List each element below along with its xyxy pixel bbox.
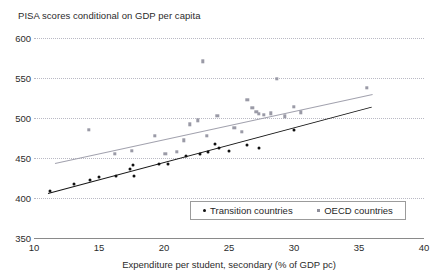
x-tick-label: 40	[419, 242, 430, 253]
data-point-transition	[217, 147, 220, 150]
y-tick-label: 450	[15, 153, 31, 164]
data-point-transition	[199, 153, 202, 156]
legend-item-transition-countries[interactable]: Transition countries	[203, 205, 293, 216]
y-axis-tick-labels: 350400450500550600	[0, 38, 31, 238]
data-point-oecd	[201, 59, 204, 62]
data-point-transition	[88, 179, 91, 182]
data-point-transition	[129, 168, 132, 171]
legend-label: OECD countries	[324, 205, 393, 216]
data-point-transition	[133, 174, 136, 177]
data-point-oecd	[175, 150, 178, 153]
data-point-oecd	[153, 134, 156, 137]
data-point-oecd	[87, 128, 90, 131]
trend-line-oecd	[55, 94, 372, 164]
data-point-transition	[246, 144, 249, 147]
data-point-transition	[257, 146, 260, 149]
data-point-transition	[98, 176, 101, 179]
gridline	[34, 118, 424, 119]
data-point-transition	[207, 151, 210, 154]
data-point-oecd	[245, 98, 248, 101]
data-point-transition	[293, 129, 296, 132]
chart-figure: PISA scores conditional on GDP per capit…	[0, 0, 436, 280]
data-point-oecd	[113, 152, 116, 155]
data-point-oecd	[130, 149, 133, 152]
data-point-transition	[157, 162, 160, 165]
data-point-transition	[166, 162, 169, 165]
x-tick-label: 10	[29, 242, 40, 253]
data-point-oecd	[292, 105, 295, 108]
x-tick-label: 35	[354, 242, 365, 253]
chart-title: PISA scores conditional on GDP per capit…	[18, 10, 200, 21]
y-tick-label: 550	[15, 73, 31, 84]
data-point-transition	[48, 189, 51, 192]
x-tick-label: 25	[224, 242, 235, 253]
data-point-oecd	[257, 112, 260, 115]
x-tick-label: 15	[94, 242, 105, 253]
chart-legend: Transition countries OECD countries	[190, 201, 406, 220]
y-tick-label: 500	[15, 113, 31, 124]
y-tick-label: 600	[15, 33, 31, 44]
data-point-oecd	[196, 119, 199, 122]
data-point-oecd	[251, 106, 254, 109]
data-point-transition	[228, 149, 231, 152]
data-point-oecd	[182, 139, 185, 142]
data-point-oecd	[164, 152, 167, 155]
data-point-oecd	[262, 113, 265, 116]
data-point-transition	[213, 142, 216, 145]
data-point-oecd	[216, 114, 219, 117]
x-axis-line	[34, 238, 424, 239]
x-tick-label: 20	[159, 242, 170, 253]
data-point-oecd	[188, 123, 191, 126]
legend-label: Transition countries	[210, 205, 293, 216]
data-point-transition	[114, 174, 117, 177]
square-marker-icon	[317, 209, 320, 212]
gridline	[34, 78, 424, 79]
y-tick-label: 400	[15, 193, 31, 204]
data-point-oecd	[269, 111, 272, 114]
legend-item-oecd-countries[interactable]: OECD countries	[317, 205, 393, 216]
trend-line-transition	[48, 107, 372, 194]
x-axis-title: Expenditure per student, secondary (% of…	[34, 259, 424, 270]
data-point-oecd	[205, 134, 208, 137]
x-axis-tick-labels: 10152025303540	[34, 242, 424, 256]
gridline	[34, 38, 424, 39]
data-point-oecd	[299, 111, 302, 114]
x-tick-label: 30	[289, 242, 300, 253]
data-point-transition	[185, 155, 188, 158]
gridline	[34, 158, 424, 159]
data-point-oecd	[365, 86, 368, 89]
data-point-oecd	[232, 126, 235, 129]
data-point-oecd	[283, 115, 286, 118]
data-point-transition	[73, 183, 76, 186]
data-point-transition	[131, 164, 134, 167]
data-point-oecd	[240, 130, 243, 133]
gridline	[34, 198, 424, 199]
data-point-oecd	[275, 77, 278, 80]
dot-marker-icon	[203, 209, 206, 212]
